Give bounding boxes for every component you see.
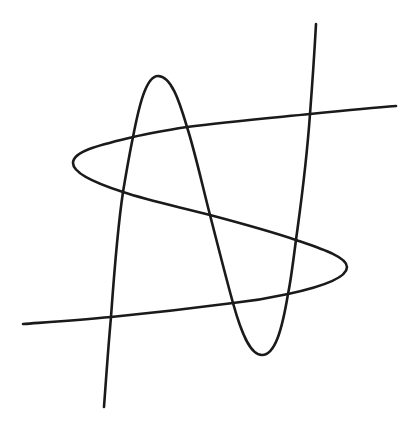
curves-diagram [0, 0, 415, 429]
